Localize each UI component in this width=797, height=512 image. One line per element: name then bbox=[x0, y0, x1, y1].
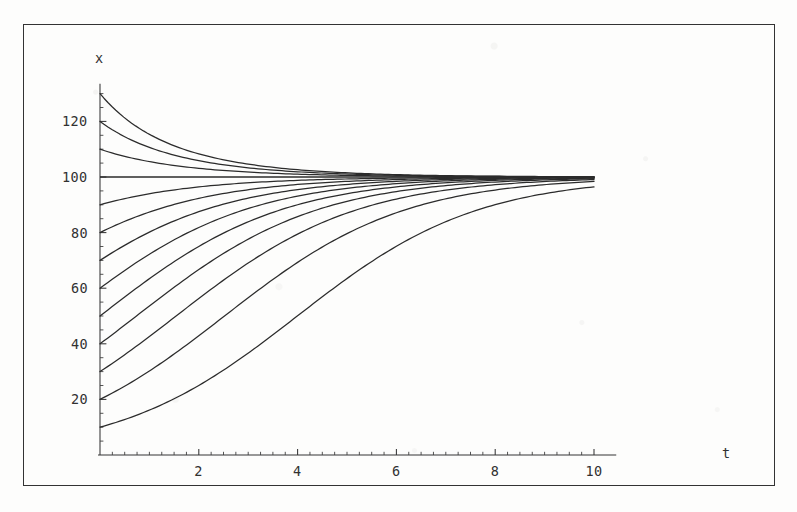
axes-group bbox=[98, 84, 616, 455]
x-axis-tick-label: 2 bbox=[194, 463, 203, 479]
curve-family bbox=[100, 94, 594, 428]
solution-curve bbox=[100, 180, 594, 372]
solution-curve bbox=[100, 121, 594, 176]
x-axis-tick-label: 10 bbox=[586, 463, 603, 479]
x-axis-tick-label: 8 bbox=[491, 463, 500, 479]
y-axis-tick-label: 100 bbox=[62, 169, 88, 185]
solution-curve bbox=[100, 177, 594, 232]
solution-curve bbox=[100, 187, 594, 427]
x-axis-title: t bbox=[722, 445, 730, 461]
solution-curve bbox=[100, 94, 594, 177]
y-axis-tick-label: 20 bbox=[71, 391, 88, 407]
x-axis-tick-label: 6 bbox=[392, 463, 401, 479]
y-axis-tick-label: 120 bbox=[62, 113, 88, 129]
solution-curve bbox=[100, 181, 594, 399]
plot-canvas bbox=[0, 0, 797, 512]
y-axis-tick-label: 80 bbox=[71, 225, 88, 241]
y-axis-tick-label: 60 bbox=[71, 280, 88, 296]
y-axis-title: x bbox=[95, 50, 103, 66]
y-axis-tick-label: 40 bbox=[71, 336, 88, 352]
x-axis-tick-label: 4 bbox=[293, 463, 302, 479]
